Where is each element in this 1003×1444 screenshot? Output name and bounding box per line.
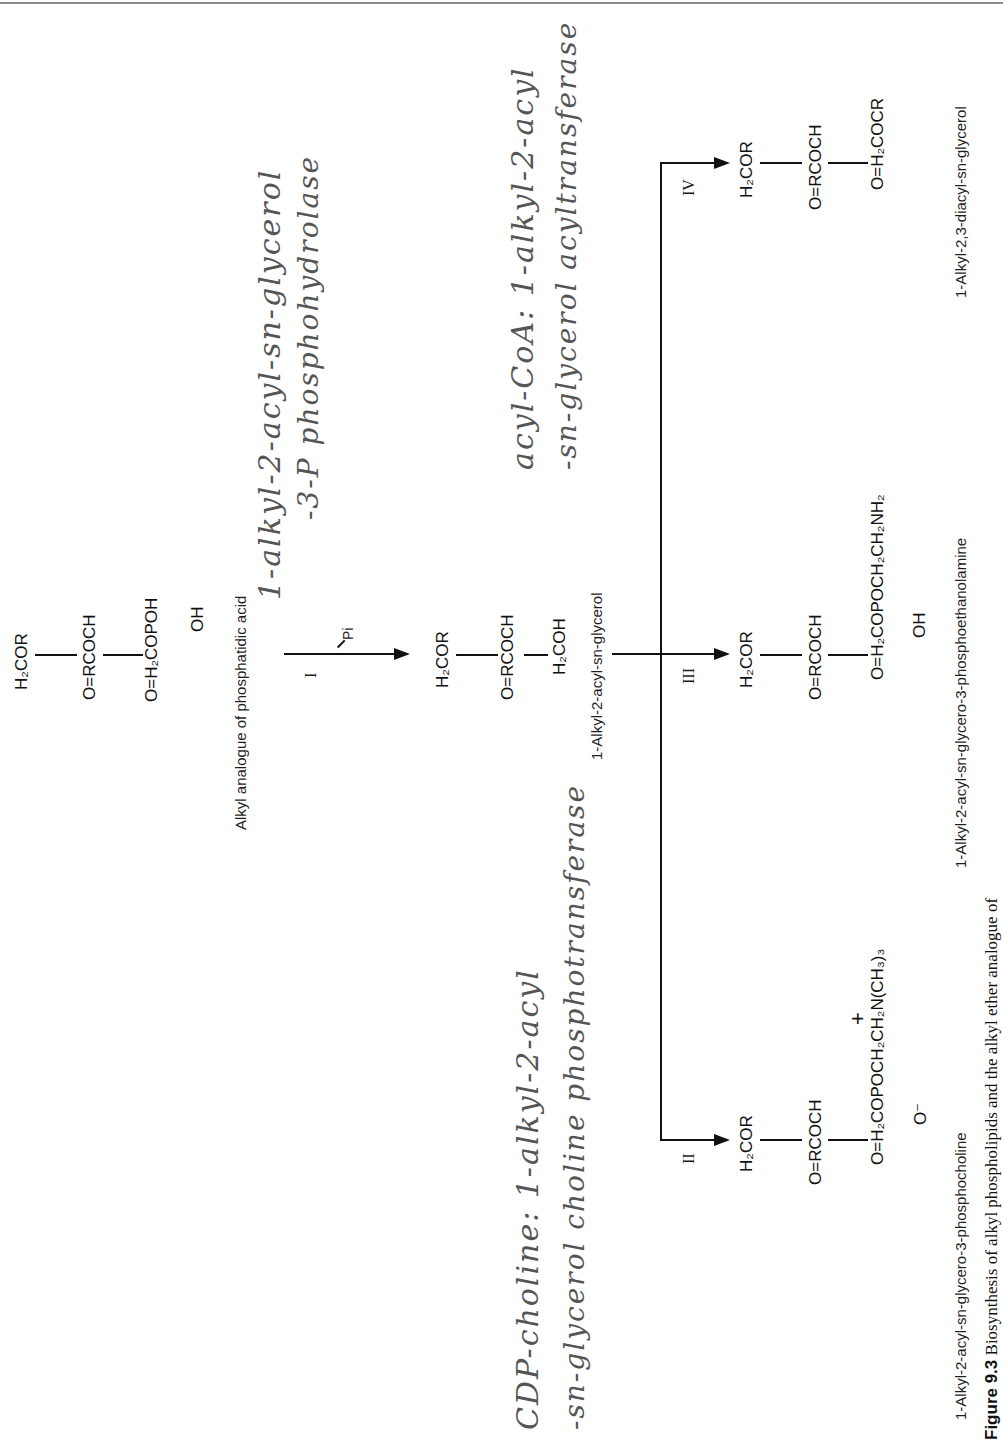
- chem-row: H₂COH: [550, 618, 570, 675]
- byproduct-label: Pi: [340, 628, 356, 640]
- byproduct-branch: [337, 640, 345, 648]
- bond: [760, 162, 802, 164]
- page-top-rule: [0, 2, 1003, 4]
- compound-label: 1-Alkyl-2-acyl-sn-glycerol: [588, 592, 605, 760]
- bond: [828, 162, 868, 164]
- chem-row: H₂COR: [737, 631, 757, 688]
- reaction-label: III: [680, 668, 698, 684]
- caption-text: Biosynthesis of alkyl phospholipids and …: [982, 898, 1001, 1356]
- arrow-shaft: [660, 1139, 716, 1141]
- chem-row: O=H₂COPOCH₂CH₂N(CH₃)₃: [868, 949, 888, 1165]
- chem-row: O=H₂COCR: [868, 98, 888, 190]
- bond: [35, 654, 77, 656]
- chem-row: O=RCOCH: [806, 125, 826, 210]
- bond: [760, 654, 802, 656]
- chem-row: H₂COR: [737, 1115, 757, 1172]
- note-enzyme-II-line1: CDP-choline: 1-alkyl-2-acyl: [510, 968, 545, 1430]
- bond: [828, 654, 868, 656]
- chem-row: H₂COR: [12, 633, 32, 690]
- chem-row: O=RCOCH: [806, 1100, 826, 1185]
- note-enzyme-I-line2: -3-P phosphohydrolase: [292, 155, 325, 520]
- chem-row: H₂COR: [433, 631, 453, 688]
- branch-line: [660, 162, 662, 1140]
- bond: [456, 654, 498, 656]
- compound-label: 1-Alkyl-2,3-diacyl-sn-glycerol: [952, 106, 969, 298]
- compound-label: 1-Alkyl-2-acyl-sn-glycero-3-phosphocholi…: [952, 1132, 969, 1420]
- reaction-label: IV: [680, 179, 698, 196]
- arrow-head-icon: [714, 157, 730, 169]
- compound-label: Alkyl analogue of phosphatidic acid: [232, 596, 249, 830]
- chem-row: H₂COR: [737, 141, 757, 198]
- note-enzyme-IV-line1: acyl-CoA: 1-alkyl-2-acyl: [505, 66, 540, 470]
- note-enzyme-IV-line2: -sn-glycerol acyltransferase: [550, 21, 583, 470]
- figure-caption: Figure 9.3 Biosynthesis of alkyl phospho…: [982, 898, 1002, 1440]
- chem-row: O=H₂COPOH: [142, 598, 162, 702]
- reaction-label: I: [302, 673, 320, 678]
- note-enzyme-II-line2: -sn-glycerol choline phosphotransferase: [558, 784, 591, 1430]
- chem-row: OH: [910, 613, 930, 639]
- bond: [760, 1139, 802, 1141]
- note-enzyme-I-line1: 1-alkyl-2-acyl-sn-glycerol: [252, 169, 287, 600]
- charge-plus: +: [845, 1012, 871, 1025]
- arrow-head-icon: [394, 648, 410, 660]
- bond: [828, 1139, 868, 1141]
- chem-row: O=H₂COPOCH₂CH₂NH₂: [868, 494, 888, 680]
- chem-row: O=RCOCH: [806, 615, 826, 700]
- arrow-head-icon: [714, 648, 730, 660]
- compound-label: 1-Alkyl-2-acyl-sn-glycero-3-phosphoethan…: [952, 538, 969, 868]
- caption-label: Figure 9.3: [982, 1360, 1001, 1440]
- arrow-shaft: [660, 162, 716, 164]
- arrow-shaft: [284, 653, 394, 655]
- chem-row: O=RCOCH: [80, 615, 100, 700]
- bond: [524, 654, 548, 656]
- chem-row: OH: [188, 607, 208, 633]
- chem-row: O=RCOCH: [498, 615, 518, 700]
- bond: [103, 654, 143, 656]
- chem-row: O⁻: [910, 1103, 931, 1125]
- arrow-shaft: [612, 653, 716, 655]
- reaction-label: II: [680, 1153, 698, 1164]
- arrow-head-icon: [714, 1134, 730, 1146]
